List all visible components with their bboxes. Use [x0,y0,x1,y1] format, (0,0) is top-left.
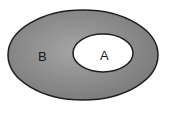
venn-diagram: B A [0,0,170,123]
set-b-label: B [38,49,47,64]
set-a-label: A [100,48,109,63]
